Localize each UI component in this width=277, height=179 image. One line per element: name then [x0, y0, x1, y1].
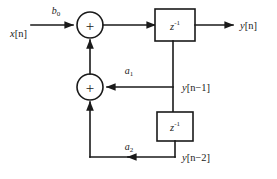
gain-label-b0: b0 — [52, 5, 61, 18]
output-label: y[n] — [239, 20, 257, 31]
diagram-canvas: x[n] b0 + z-1 y[n] y[n−1] a1 — [0, 0, 277, 179]
input-label: x[n] — [9, 28, 27, 39]
summer-top-plus-icon: + — [86, 18, 94, 34]
tap-label-y-n-2: y[n−2] — [181, 152, 210, 163]
summer-bottom-plus-icon: + — [86, 80, 94, 96]
tap-label-y-n-1: y[n−1] — [181, 82, 210, 93]
gain-label-a2: a2 — [125, 141, 134, 154]
gain-label-a1: a1 — [125, 65, 134, 78]
signal-flow-diagram: x[n] b0 + z-1 y[n] y[n−1] a1 — [0, 0, 277, 179]
